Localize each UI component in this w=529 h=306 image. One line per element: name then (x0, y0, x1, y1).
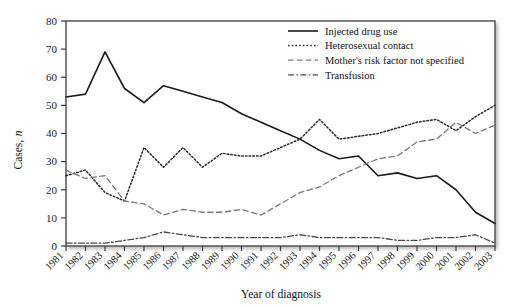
line-chart: 01020304050607080 1981198219831984198519… (0, 0, 529, 306)
x-axis-title: Year of diagnosis (241, 288, 321, 301)
y-axis-title-italic-n: n (12, 130, 24, 136)
y-tick-label: 50 (46, 99, 58, 111)
legend-label: Transfusion (325, 70, 376, 81)
legend-label: Mother's risk factor not specified (325, 55, 465, 66)
y-axis-title: Cases, (12, 140, 25, 170)
y-tick-label: 80 (46, 15, 58, 27)
legend-label: Heterosexual contact (325, 40, 413, 51)
y-axis-tick-labels: 01020304050607080 (46, 15, 58, 252)
y-tick-label: 60 (46, 71, 58, 83)
y-tick-label: 30 (46, 155, 58, 167)
chart-figure: 01020304050607080 1981198219831984198519… (0, 0, 529, 306)
legend-label: Injected drug use (325, 26, 398, 37)
y-tick-label: 70 (46, 43, 58, 55)
y-tick-label: 20 (46, 184, 58, 196)
y-tick-label: 10 (46, 212, 58, 224)
y-tick-label: 40 (46, 127, 58, 139)
